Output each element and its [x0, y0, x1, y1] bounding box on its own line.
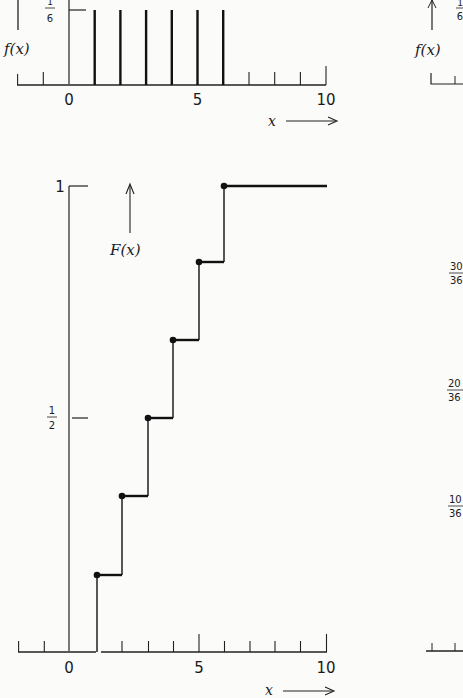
pmf-spikes	[95, 10, 224, 85]
ylabel-Fx: F(x)	[109, 241, 141, 259]
ytick-num: 1	[47, 0, 53, 7]
bottom-cdf-chart: 1 1 2 F(x)	[18, 178, 336, 698]
xtick-0: 0	[64, 91, 74, 109]
tick-20-36-den: 36	[448, 392, 461, 403]
right-partial-charts: 1 6 f(x) 30 36 20 36 10 36	[414, 0, 463, 651]
xlabel: x	[265, 682, 273, 698]
ytick-den: 6	[47, 13, 53, 24]
tick-30-36-den: 36	[450, 275, 463, 286]
xtick-5: 5	[194, 659, 204, 677]
partial-tick-num: 1	[457, 0, 463, 8]
xlabel: x	[268, 113, 276, 129]
ytick-1: 1	[55, 178, 65, 196]
tick-10-36-num: 10	[449, 494, 462, 505]
xtick-10: 10	[316, 659, 335, 677]
x-ticks	[19, 634, 327, 652]
partial-axis	[431, 73, 463, 84]
xtick-5: 5	[193, 91, 203, 109]
ytick-half-num: 1	[49, 405, 55, 416]
tick-30-36-num: 30	[450, 261, 463, 272]
ytick-half-den: 2	[49, 420, 55, 431]
ylabel-fx: f(x)	[414, 41, 441, 59]
top-pmf-chart: 1 6 f(x) 0 5 10 x	[3, 0, 337, 129]
xtick-10: 10	[316, 91, 335, 109]
tick-10-36-den: 36	[449, 508, 462, 519]
xtick-0: 0	[64, 659, 74, 677]
ylabel-fx: f(x)	[3, 40, 30, 58]
tick-20-36-num: 20	[448, 378, 461, 389]
partial-tick-den: 6	[457, 11, 463, 22]
figure: 1 6 f(x) 0 5 10 x	[0, 0, 463, 698]
